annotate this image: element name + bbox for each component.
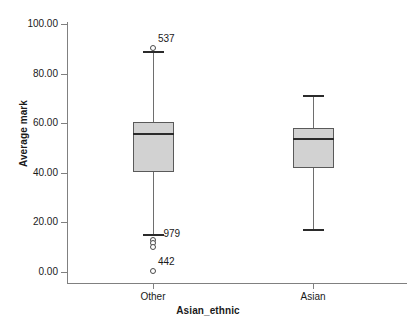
whisker-cap-upper [303, 95, 324, 97]
y-axis-line [67, 22, 68, 284]
whisker-lower [153, 172, 154, 234]
x-axis-title: Asian_ethnic [0, 305, 416, 316]
x-axis-tick [153, 283, 154, 289]
y-axis-tick [61, 74, 68, 75]
x-axis-category-label: Other [108, 291, 198, 302]
y-axis-tick [61, 24, 68, 25]
y-axis-tick-label: 60.00 [0, 118, 58, 128]
whisker-upper [153, 51, 154, 122]
y-axis-tick [61, 173, 68, 174]
outlier-label: 442 [158, 257, 175, 267]
outlier-point [150, 45, 156, 51]
median-line [133, 133, 174, 135]
x-axis-line [67, 283, 407, 284]
outlier-label: 537 [158, 34, 175, 44]
boxplot-chart: Average mark 0.0020.0040.0060.0080.00100… [0, 0, 416, 327]
box-other [133, 122, 174, 172]
whisker-value-label: 979 [164, 229, 181, 239]
whisker-cap-lower [303, 229, 324, 231]
y-axis-tick-label: 100.00 [0, 19, 58, 29]
whisker-cap-upper [143, 51, 164, 53]
y-axis-tick-label: 80.00 [0, 69, 58, 79]
y-axis-tick [61, 123, 68, 124]
y-axis-tick [61, 272, 68, 273]
y-axis-tick [61, 222, 68, 223]
outlier-point [150, 268, 156, 274]
y-axis-tick-label: 40.00 [0, 168, 58, 178]
whisker-lower [313, 168, 314, 229]
outlier-point [150, 244, 156, 250]
x-axis-tick [313, 283, 314, 289]
y-axis-tick-label: 0.00 [0, 267, 58, 277]
whisker-upper [313, 95, 314, 128]
whisker-cap-lower [143, 234, 164, 236]
y-axis-tick-label: 20.00 [0, 217, 58, 227]
x-axis-category-label: Asian [268, 291, 358, 302]
median-line [293, 138, 334, 140]
box-asian [293, 128, 334, 168]
